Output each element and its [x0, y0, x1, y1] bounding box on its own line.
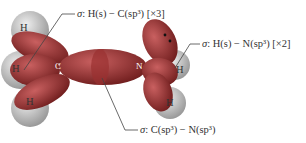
atom-c: C — [55, 61, 61, 71]
atom-h-3: H — [26, 96, 34, 107]
label-cn-bond: σ: C(sp³) − N(sp³) — [140, 124, 215, 135]
orbital-diagram — [0, 0, 306, 143]
atom-n: N — [136, 61, 143, 71]
label-ch-bond: σ: H(s) − C(sp³) [×3] — [77, 8, 165, 19]
lone-pair-electron — [169, 40, 172, 43]
label-cn-bond-text: : C(sp³) − N(sp³) — [145, 124, 215, 135]
label-nh-bond: σ: H(s) − N(sp³) [×2] — [202, 38, 290, 49]
lone-pair-electron — [164, 34, 167, 37]
label-nh-bond-text: : H(s) − N(sp³) [×2] — [207, 38, 290, 49]
atom-h-5: H — [166, 97, 174, 108]
atom-h-4: H — [176, 64, 184, 75]
leader-line-cn — [102, 78, 138, 130]
cn-orbital-ring — [91, 49, 109, 85]
label-ch-bond-text: : H(s) − C(sp³) [×3] — [82, 8, 165, 19]
atom-h-2: H — [12, 63, 20, 74]
atom-h-1: H — [20, 22, 28, 33]
